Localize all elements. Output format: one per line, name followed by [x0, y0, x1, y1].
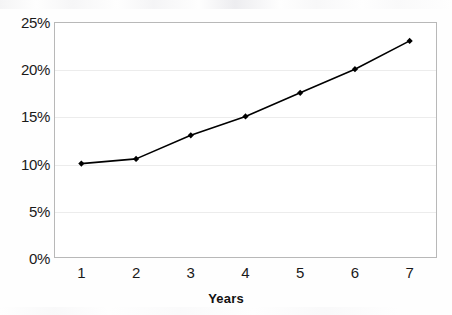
series-line: [81, 41, 409, 164]
data-point-marker: [133, 156, 139, 162]
data-point-marker: [352, 66, 358, 72]
data-point-marker: [242, 113, 248, 119]
x-axis-title: Years: [0, 291, 452, 306]
data-point-marker: [297, 90, 303, 96]
line-series: [0, 0, 452, 315]
data-point-marker: [188, 132, 194, 138]
chart-page: 0%5%10%15%20%25% 1234567 Years: [0, 0, 452, 315]
data-point-marker: [407, 38, 413, 44]
data-point-marker: [78, 161, 84, 167]
